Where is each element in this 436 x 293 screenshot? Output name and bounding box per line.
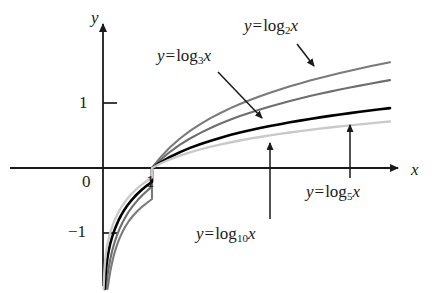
plot-canvas	[0, 0, 436, 293]
curve-log10	[104, 122, 390, 290]
label-log5-eq: =	[314, 182, 326, 201]
origin-tick-label: 0	[82, 172, 91, 192]
x-tick-label-1: 1	[146, 172, 155, 192]
label-log5-arg: x	[352, 182, 360, 201]
label-log3-eq: =	[165, 46, 177, 65]
arrow-to-log2-curve	[297, 44, 314, 66]
label-log10-arg: x	[248, 224, 256, 243]
y-tick-label-negative-1: −1	[68, 222, 86, 242]
y-tick-label-1: 1	[79, 93, 88, 113]
label-log5-lhs: y	[306, 182, 314, 201]
curve-label-log5: y=log5x	[306, 182, 360, 202]
label-log3-fn: log	[176, 46, 198, 65]
label-log2-lhs: y	[244, 16, 252, 35]
label-log3-arg: x	[203, 46, 211, 65]
label-log10-eq: =	[204, 224, 216, 243]
label-log2-arg: x	[290, 16, 298, 35]
label-log2-eq: =	[252, 16, 264, 35]
label-log10-base: 10	[237, 232, 248, 244]
label-log10-fn: log	[215, 224, 237, 243]
curve-label-log10: y=log10x	[196, 224, 255, 244]
curve-label-log2: y=log2x	[244, 16, 298, 36]
logarithm-functions-figure: y=log2x y=log3x y=log5x y=log10x x y 1 −…	[0, 0, 436, 293]
label-log2-fn: log	[263, 16, 285, 35]
label-log10-lhs: y	[196, 224, 204, 243]
curve-label-log3: y=log3x	[157, 46, 211, 66]
label-log3-lhs: y	[157, 46, 165, 65]
y-axis-label: y	[91, 8, 99, 28]
label-log5-fn: log	[325, 182, 347, 201]
x-axis-label: x	[411, 160, 419, 180]
